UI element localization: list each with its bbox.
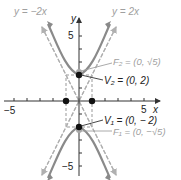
vertex-top-label: V₂ = (0, 2) bbox=[104, 75, 149, 86]
y-tick-5-label: 5 bbox=[68, 30, 74, 41]
asymptote-right-label: y = 2x bbox=[111, 6, 140, 17]
hyperbola-diagram: y = −2x y = 2x y 5 −5 −5 5 x F₂ = (0, √5… bbox=[0, 0, 181, 180]
vertex-bottom-label: V₁ = (0, − 2) bbox=[104, 115, 157, 126]
focus-top-label: F₂ = (0, √5) bbox=[113, 56, 161, 67]
x-tick-neg5-label: −5 bbox=[4, 105, 16, 116]
y-tick-neg5-label: −5 bbox=[62, 161, 74, 172]
x-tick-5-label: 5 bbox=[141, 104, 147, 115]
y-axis-label: y bbox=[70, 13, 77, 24]
co-vertex-right-point bbox=[89, 98, 95, 104]
asymptote-left-label: y = −2x bbox=[13, 6, 48, 17]
leader-focus-top bbox=[81, 63, 112, 71]
focus-bottom-label: F₁ = (0, −√5) bbox=[113, 126, 166, 137]
vertex-bottom-point bbox=[76, 124, 82, 130]
co-vertex-left-point bbox=[63, 98, 69, 104]
x-axis-label: x bbox=[152, 104, 159, 115]
